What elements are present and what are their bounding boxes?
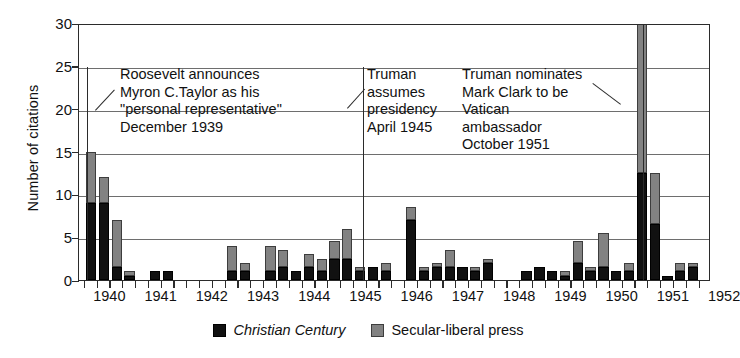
bar-segment-christian-century <box>99 203 109 280</box>
table-row <box>291 271 301 280</box>
bar-segment-christian-century <box>483 263 493 280</box>
bar-segment-secular-liberal-press <box>675 263 685 272</box>
bar-segment-christian-century <box>560 276 570 280</box>
y-tick-label-0: 0 <box>32 276 72 286</box>
x-tick-mark-25 <box>404 281 405 288</box>
bar-segment-christian-century <box>163 271 173 280</box>
annotation-truman-clark: Truman nominates Mark Clark to be Vatica… <box>462 66 582 154</box>
bar-segment-christian-century <box>470 271 480 280</box>
x-tick-mark-35 <box>532 281 533 288</box>
table-row <box>650 173 660 280</box>
table-row <box>304 254 314 280</box>
table-row <box>483 259 493 280</box>
bar-segment-secular-liberal-press <box>381 263 391 272</box>
x-tick-mark-19 <box>327 281 328 288</box>
y-tick-label-10: 10 <box>32 190 72 200</box>
table-row <box>240 263 250 280</box>
legend-item-christian-century: Christian Century <box>213 322 345 338</box>
x-tick-mark-8 <box>186 281 187 288</box>
x-tick-label-1944: 1944 <box>298 288 330 304</box>
table-row <box>278 250 288 280</box>
black-swatch-icon <box>213 324 226 337</box>
x-tick-mark-34 <box>519 281 520 288</box>
x-tick-mark-30 <box>468 281 469 288</box>
bar-segment-christian-century <box>637 173 647 280</box>
x-tick-label-1952: 1952 <box>708 288 740 304</box>
x-tick-mark-41 <box>609 281 610 288</box>
bar-segment-christian-century <box>598 267 608 280</box>
x-tick-mark-22 <box>366 281 367 288</box>
x-tick-mark-6 <box>161 281 162 288</box>
bar-segment-secular-liberal-press <box>573 241 583 262</box>
annotation-roosevelt: Roosevelt announces Myron C.Taylor as hi… <box>120 66 282 136</box>
bar-segment-christian-century <box>521 271 531 280</box>
table-row <box>419 267 429 280</box>
table-row <box>150 271 160 280</box>
x-tick-mark-37 <box>558 281 559 288</box>
bar-segment-secular-liberal-press <box>406 207 416 220</box>
bar-segment-secular-liberal-press <box>688 263 698 267</box>
y-tick-label-20: 20 <box>32 105 72 115</box>
rule-roosevelt <box>87 67 88 280</box>
table-row <box>470 267 480 280</box>
bar-segment-christian-century <box>240 271 250 280</box>
legend: Christian Century Secular-liberal press <box>0 322 737 338</box>
bar-segment-secular-liberal-press <box>240 263 250 272</box>
table-row <box>99 177 109 280</box>
table-row <box>585 267 595 280</box>
x-tick-mark-43 <box>634 281 635 288</box>
x-tick-mark-40 <box>596 281 597 288</box>
annotation-truman-presidency: Truman assumes presidency April 1945 <box>367 66 437 136</box>
x-tick-mark-18 <box>314 281 315 288</box>
table-row <box>598 233 608 280</box>
bar-segment-christian-century <box>265 271 275 280</box>
bar-segment-secular-liberal-press <box>112 220 122 267</box>
table-row <box>124 271 134 280</box>
bar-segment-christian-century <box>342 259 352 280</box>
x-tick-mark-38 <box>570 281 571 288</box>
x-tick-label-1940: 1940 <box>93 288 125 304</box>
table-row <box>342 229 352 280</box>
table-row <box>688 263 698 280</box>
bar-segment-secular-liberal-press <box>637 24 647 173</box>
table-row <box>560 271 570 280</box>
gridline-10 <box>79 196 709 197</box>
bar-segment-secular-liberal-press <box>470 267 480 271</box>
bar-segment-christian-century <box>304 267 314 280</box>
plot-area <box>78 24 710 281</box>
x-tick-mark-48 <box>699 281 700 288</box>
bar-segment-secular-liberal-press <box>265 246 275 272</box>
y-axis-tick-labels: 051015202530 <box>28 0 72 358</box>
bar-segment-secular-liberal-press <box>445 250 455 267</box>
table-row <box>573 241 583 280</box>
bar-segment-christian-century <box>381 271 391 280</box>
x-tick-mark-36 <box>545 281 546 288</box>
x-tick-mark-45 <box>660 281 661 288</box>
bar-segment-secular-liberal-press <box>650 173 660 224</box>
table-row <box>611 271 621 280</box>
bar-segment-secular-liberal-press <box>317 259 327 272</box>
x-tick-mark-15 <box>276 281 277 288</box>
bar-segment-christian-century <box>317 271 327 280</box>
x-tick-label-1946: 1946 <box>401 288 433 304</box>
x-tick-mark-20 <box>340 281 341 288</box>
table-row <box>265 246 275 280</box>
x-tick-mark-1 <box>97 281 98 288</box>
bar-segment-secular-liberal-press <box>342 229 352 259</box>
x-tick-label-1941: 1941 <box>144 288 176 304</box>
rule-truman-clark <box>643 25 644 280</box>
table-row <box>445 250 455 280</box>
gray-swatch-icon <box>371 324 384 337</box>
x-tick-mark-23 <box>378 281 379 288</box>
bar-segment-secular-liberal-press <box>432 263 442 267</box>
bar-segment-christian-century <box>611 271 621 280</box>
x-tick-mark-47 <box>686 281 687 288</box>
bar-segment-christian-century <box>419 271 429 280</box>
bar-segment-secular-liberal-press <box>598 233 608 267</box>
x-tick-label-1950: 1950 <box>605 288 637 304</box>
bar-segment-christian-century <box>585 271 595 280</box>
bar-segment-christian-century <box>432 267 442 280</box>
bar-segment-christian-century <box>329 259 339 280</box>
legend-item-secular-liberal-press: Secular-liberal press <box>371 322 523 338</box>
